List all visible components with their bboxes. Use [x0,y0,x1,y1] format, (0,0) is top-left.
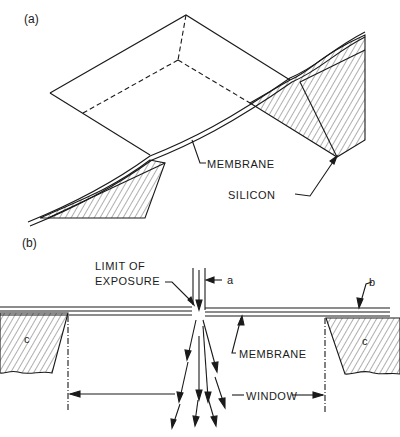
membrane-label-a: MEMBRANE [207,158,275,170]
label-c-left: c [24,333,30,345]
scattered-beam-arrows [171,320,225,428]
label-a: a [227,274,234,286]
limit-of-exposure-line1: LIMIT OF [95,260,145,272]
panel-a-drawing [28,15,365,226]
membrane-label-b: MEMBRANE [239,348,307,360]
label-b: b [369,276,376,288]
panel-b-label: (b) [22,236,37,250]
label-c-right: c [362,335,368,347]
window-label: WINDOW [246,390,297,402]
panel-a-label: (a) [24,12,39,26]
limit-of-exposure-line2: EXPOSURE [95,275,160,287]
membrane-window-diagram [0,0,400,437]
panel-b-drawing [0,268,400,428]
silicon-label: SILICON [228,189,276,201]
